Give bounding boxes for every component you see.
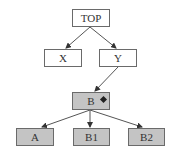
node-top: TOP	[72, 9, 110, 27]
node-b2: B2	[128, 128, 165, 146]
node-label: B1	[85, 131, 98, 143]
node-b1: B1	[73, 128, 110, 146]
node-label: TOP	[81, 12, 102, 24]
node-x: X	[44, 49, 82, 67]
node-label: A	[31, 131, 39, 143]
edge-y-b	[95, 67, 118, 91]
node-label: X	[59, 52, 67, 64]
diamond-marker-icon	[100, 96, 107, 103]
node-label: B2	[140, 131, 153, 143]
edge-b-b2	[90, 110, 142, 127]
edge-top-y	[90, 27, 116, 48]
node-b: B	[72, 92, 110, 110]
node-a: A	[16, 128, 54, 146]
node-label: Y	[114, 52, 122, 64]
edge-top-x	[66, 27, 90, 48]
node-label: B	[87, 95, 94, 107]
edge-b-a	[42, 110, 90, 127]
node-y: Y	[99, 49, 137, 67]
